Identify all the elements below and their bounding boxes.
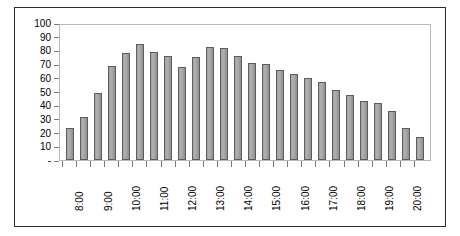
bar-slot — [329, 25, 343, 160]
bar — [290, 74, 299, 160]
x-axis-tick-label: 16:00 — [301, 186, 311, 211]
bar-slot — [413, 25, 427, 160]
x-axis-minor-tick-mark — [358, 161, 359, 167]
bar-slot — [91, 25, 105, 160]
x-axis-tick-mark — [315, 161, 316, 167]
y-axis: -102030405060708090100 — [15, 24, 59, 161]
bar — [318, 82, 327, 160]
chart-frame: -102030405060708090100 8:009:0010:0011:0… — [14, 7, 446, 227]
bar-slot — [273, 25, 287, 160]
bar-slot — [245, 25, 259, 160]
bar-slot — [371, 25, 385, 160]
x-axis-tick-mark — [90, 161, 91, 167]
bar-slot — [301, 25, 315, 160]
x-axis-tick-mark — [62, 161, 63, 167]
bar — [374, 103, 383, 160]
bar-slot — [175, 25, 189, 160]
bar-slot — [133, 25, 147, 160]
bar — [108, 66, 117, 161]
x-axis-tick-label: 11:00 — [160, 187, 170, 211]
bar-slot — [399, 25, 413, 160]
x-axis-tick-label: 17:00 — [329, 186, 339, 211]
bar-slot — [231, 25, 245, 160]
x-axis-tick-label: 8:00 — [75, 192, 85, 211]
x-axis-tick-label: 14:00 — [244, 186, 254, 211]
bar — [248, 63, 257, 160]
y-axis-tick-label: 50 — [40, 88, 54, 98]
x-axis-tick-mark — [372, 161, 373, 167]
y-axis-tick-label: 20 — [40, 129, 54, 139]
y-axis-tick-label: 70 — [40, 60, 54, 70]
x-axis-minor-tick-mark — [245, 161, 246, 167]
bar — [276, 70, 285, 160]
bar-slot — [63, 25, 77, 160]
bar-slot — [203, 25, 217, 160]
bar — [164, 56, 173, 160]
x-axis-tick-mark — [400, 161, 401, 167]
bar — [192, 57, 201, 160]
plot-area — [59, 24, 431, 161]
y-axis-tick-label: 80 — [40, 46, 54, 56]
x-axis-minor-tick-mark — [189, 161, 190, 167]
y-axis-tick-label: 100 — [34, 19, 54, 29]
y-axis-tick-label: 30 — [40, 115, 54, 125]
x-axis-minor-tick-mark — [301, 161, 302, 167]
x-axis-tick-label: 18:00 — [357, 186, 367, 211]
y-axis-tick-label: 60 — [40, 74, 54, 84]
bar — [94, 93, 103, 161]
bar — [332, 90, 341, 160]
bar — [122, 53, 131, 160]
bar — [66, 128, 75, 160]
x-axis: 8:009:0010:0011:0012:0013:0014:0015:0016… — [59, 161, 431, 223]
bar-slot — [147, 25, 161, 160]
bar-slot — [315, 25, 329, 160]
x-axis-tick-label: 15:00 — [272, 186, 282, 211]
x-axis-tick-mark — [118, 161, 119, 167]
bar — [206, 47, 215, 160]
x-axis-tick-label: 20:00 — [413, 186, 423, 211]
bar-slot — [287, 25, 301, 160]
bar-slot — [119, 25, 133, 160]
x-axis-minor-tick-mark — [414, 161, 415, 167]
bar — [136, 44, 145, 160]
bar — [178, 67, 187, 160]
x-axis-minor-tick-mark — [386, 161, 387, 167]
x-axis-minor-tick-mark — [217, 161, 218, 167]
bar-slot — [189, 25, 203, 160]
bar — [80, 117, 89, 160]
x-axis-tick-mark — [231, 161, 232, 167]
bar-slot — [77, 25, 91, 160]
bar-slot — [217, 25, 231, 160]
x-axis-tick-mark — [175, 161, 176, 167]
x-axis-minor-tick-mark — [329, 161, 330, 167]
bar-slot — [385, 25, 399, 160]
bar-slot — [161, 25, 175, 160]
x-axis-tick-mark — [146, 161, 147, 167]
x-axis-tick-label: 9:00 — [104, 192, 114, 211]
bar-series — [60, 25, 430, 160]
bar — [262, 64, 271, 160]
x-axis-minor-tick-mark — [104, 161, 105, 167]
x-axis-tick-mark — [344, 161, 345, 167]
bar — [416, 137, 425, 160]
x-axis-minor-tick-mark — [76, 161, 77, 167]
x-axis-tick-label: 13:00 — [216, 186, 226, 211]
x-axis-tick-mark — [287, 161, 288, 167]
bar — [234, 56, 243, 160]
bar — [220, 48, 229, 160]
x-axis-tick-mark — [203, 161, 204, 167]
bar — [402, 128, 411, 160]
x-axis-tick-mark — [259, 161, 260, 167]
bar — [346, 95, 355, 160]
bar — [304, 78, 313, 160]
x-axis-minor-tick-mark — [161, 161, 162, 167]
y-axis-tick-label: 90 — [40, 33, 54, 43]
bar-slot — [343, 25, 357, 160]
bar-slot — [357, 25, 371, 160]
x-axis-ticks — [59, 161, 431, 168]
x-axis-minor-tick-mark — [132, 161, 133, 167]
y-axis-tick-label: 40 — [40, 101, 54, 111]
x-axis-tick-label: 19:00 — [385, 186, 395, 211]
bar-slot — [259, 25, 273, 160]
bar — [388, 111, 397, 160]
